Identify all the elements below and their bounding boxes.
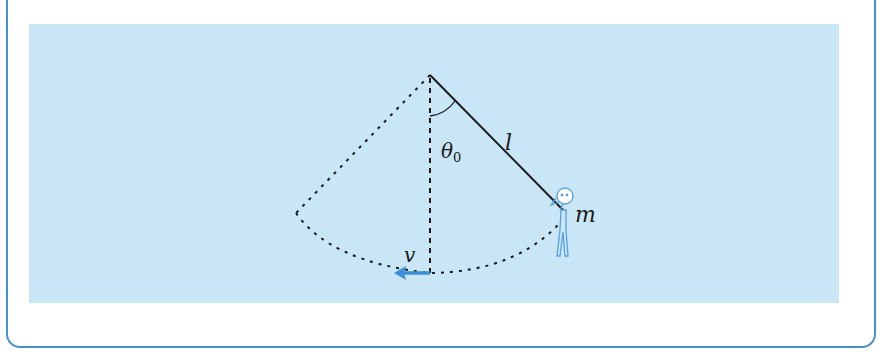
velocity-label: v xyxy=(404,243,416,267)
pendulum-diagram: θ0 l m v xyxy=(0,0,887,361)
mass-label: m xyxy=(575,202,596,227)
person-figure-icon xyxy=(551,188,573,256)
length-label: l xyxy=(505,130,512,155)
mirror-rope-dotted-line xyxy=(296,75,430,213)
angle-label: θ0 xyxy=(441,139,461,165)
velocity-arrow-icon xyxy=(394,266,430,280)
angle-arc xyxy=(430,101,455,116)
